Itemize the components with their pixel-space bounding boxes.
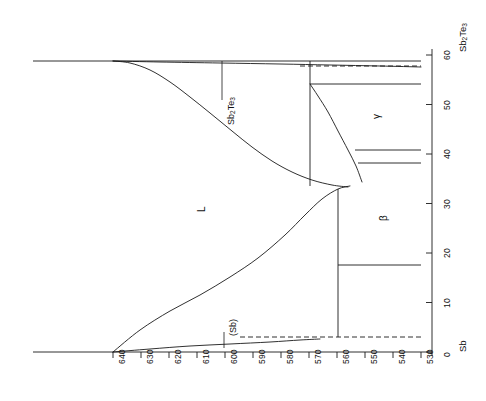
annotation-compound-sub-3: 3 <box>229 97 236 101</box>
compound-subscript-3: 3 <box>461 23 468 27</box>
region-label-liquid: L <box>196 206 207 212</box>
composition-tick-label: 60 <box>442 50 452 60</box>
compound-subscript-2: 2 <box>461 37 468 41</box>
phase-diagram-canvas <box>0 0 486 401</box>
region-label-beta: β <box>378 215 389 221</box>
phase-diagram-figure: 640630620610600590580570560550540530 010… <box>0 0 486 401</box>
composition-tick-label: 20 <box>442 248 452 258</box>
annotation-compound-main: Sb <box>226 114 236 125</box>
annotation-leaders <box>222 61 224 348</box>
compound-mid-text: Te <box>457 27 468 37</box>
diagram-curves <box>113 61 421 352</box>
curve-solidus-Sb2Te3-rich <box>113 61 421 67</box>
temperature-tick-label: 620 <box>173 349 183 364</box>
temperature-tick-label: 640 <box>117 349 127 364</box>
annotation-compound-mid: Te <box>226 101 236 111</box>
temperature-tick-label: 590 <box>257 349 267 364</box>
annotation-label-sb-solid: (Sb) <box>228 319 238 336</box>
composition-tick-label: 10 <box>442 298 452 308</box>
annotation-compound-sub-2: 2 <box>229 110 236 114</box>
temperature-tick-label: 580 <box>285 349 295 364</box>
curve-gamma-boundary <box>310 84 362 182</box>
compound-main-text: Sb <box>457 40 468 52</box>
axis-end-label-sb: Sb <box>457 340 468 352</box>
composition-tick-label: 0 <box>442 352 452 357</box>
composition-tick-label: 40 <box>442 149 452 159</box>
temperature-tick-label: 630 <box>145 349 155 364</box>
axis-ticks <box>113 55 432 358</box>
temperature-tick-label: 530 <box>425 349 435 364</box>
region-label-gamma: γ <box>371 114 382 119</box>
axis-end-label-sb2te3: Sb2Te3 <box>457 23 468 52</box>
annotation-label-sb2te3: Sb2Te3 <box>226 97 236 125</box>
composition-tick-label: 50 <box>442 100 452 110</box>
temperature-tick-label: 550 <box>369 349 379 364</box>
temperature-tick-label: 540 <box>397 349 407 364</box>
temperature-tick-label: 560 <box>341 349 351 364</box>
diagram-lines <box>33 49 432 356</box>
temperature-tick-label: 570 <box>313 349 323 364</box>
temperature-tick-label: 610 <box>201 349 211 364</box>
temperature-tick-label: 600 <box>229 349 239 364</box>
composition-tick-label: 30 <box>442 199 452 209</box>
